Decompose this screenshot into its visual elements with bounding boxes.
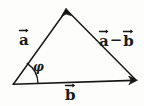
over-arrow-icon <box>123 29 134 34</box>
vector-a-glyph: a <box>19 33 29 48</box>
vector-diagram: a a − b b φ <box>0 0 144 106</box>
vector-a-minus-b-first-glyph: a <box>99 34 109 49</box>
minus-operator: − <box>109 33 124 48</box>
label-vector-a-minus-b: a − b <box>99 29 134 49</box>
label-vector-a: a <box>19 28 29 48</box>
vector-b-glyph: b <box>65 88 76 103</box>
over-arrow-icon <box>65 83 76 88</box>
over-arrow-icon <box>19 28 29 33</box>
vector-a-minus-b-first-term: a <box>99 29 109 49</box>
over-arrow-icon <box>99 29 109 34</box>
vector-a-minus-b-second-glyph: b <box>123 34 134 49</box>
label-vector-b: b <box>65 83 76 103</box>
vector-a-minus-b-second-term: b <box>123 29 134 49</box>
label-angle-phi: φ <box>33 61 44 73</box>
vector-b-term: b <box>65 83 76 103</box>
vector-a-term: a <box>19 28 29 48</box>
